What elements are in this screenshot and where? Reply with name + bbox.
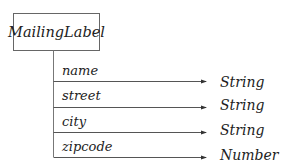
entity-label: MailingLabel <box>7 24 105 40</box>
attribute-type: String <box>220 97 264 113</box>
attribute-name: street <box>62 88 101 103</box>
attribute-name: name <box>62 63 98 78</box>
attribute-type: String <box>220 122 264 138</box>
attribute-row-zipcode[interactable]: zipcode Number <box>54 139 280 163</box>
entity-box-mailinglabel[interactable]: MailingLabel <box>7 14 105 51</box>
attribute-type: Number <box>219 147 280 163</box>
attribute-row-city[interactable]: city String <box>54 114 265 138</box>
attribute-name: zipcode <box>61 139 113 154</box>
attribute-row-street[interactable]: street String <box>54 88 265 113</box>
attribute-type: String <box>220 74 264 90</box>
attribute-name: city <box>62 114 87 129</box>
attribute-row-name[interactable]: name String <box>54 63 265 90</box>
diagram-canvas: MailingLabel name String street String c… <box>0 0 286 164</box>
